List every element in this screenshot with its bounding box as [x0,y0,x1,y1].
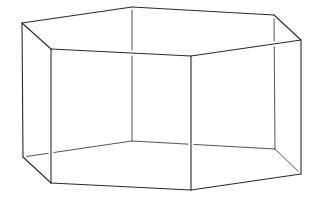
visible-edge [191,174,301,190]
hidden-edge [23,141,132,157]
hidden-edges [23,7,301,174]
visible-edge [22,23,51,49]
hidden-edge [274,15,275,149]
edge-halos [22,7,301,190]
visible-edge [23,157,51,183]
hidden-edge [132,141,275,149]
visible-edge [22,7,132,23]
visible-edge [274,15,301,40]
hidden-edge [275,149,301,174]
hexagonal-prism-drawing [0,0,316,197]
visible-edges [22,7,301,190]
hexagonal-prism-figure [0,0,316,197]
visible-edge [132,7,274,15]
visible-edge [191,40,301,56]
